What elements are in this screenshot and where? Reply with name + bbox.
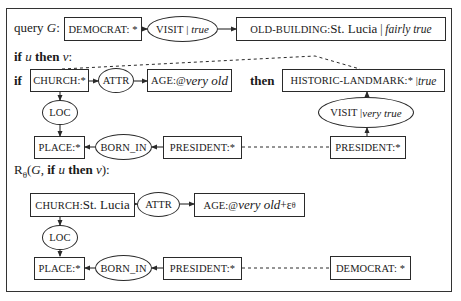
rule-visit-relation: VISIT | very true	[318, 97, 414, 128]
result-democrat-node: DEMOCRAT: *	[330, 256, 411, 280]
result-president-node: PRESIDENT:*	[163, 257, 242, 280]
rule-president-right-node: PRESIDENT:*	[330, 136, 406, 159]
query-old-building-node: OLD-BUILDING: St. Lucia | fairly true	[236, 17, 446, 41]
result-place-node: PLACE:*	[34, 257, 85, 280]
rule-then-label: then	[250, 73, 275, 89]
rule-loc-relation: LOC	[42, 100, 78, 125]
rule-attr-relation: ATTR	[98, 68, 134, 93]
result-born-in-relation: BORN_IN	[95, 255, 152, 281]
rule-president-left-node: PRESIDENT:*	[163, 136, 242, 159]
rule-born-in-relation: BORN_IN	[95, 134, 152, 160]
query-democrat-node: DEMOCRAT: *	[64, 17, 142, 41]
rule-church-node: CHURCH:*	[30, 69, 89, 92]
query-label: query G:	[14, 20, 60, 36]
result-heading: Rθ(G, if u then v):	[14, 162, 110, 180]
rule-heading: if u then v:	[14, 49, 72, 65]
result-church-node: CHURCH: St. Lucia	[30, 193, 135, 217]
rule-historic-landmark-node: HISTORIC-LANDMARK:* | true	[282, 69, 445, 92]
result-attr-relation: ATTR	[137, 192, 180, 217]
rule-place-node: PLACE:*	[34, 136, 85, 159]
result-age-node: AGE:@very old+εθ	[194, 193, 305, 217]
rule-age-node: AGE:@very old	[147, 69, 232, 92]
result-loc-relation: LOC	[42, 225, 78, 250]
query-visit-relation: VISIT | true	[147, 16, 218, 42]
rule-if-label: if	[14, 73, 22, 89]
